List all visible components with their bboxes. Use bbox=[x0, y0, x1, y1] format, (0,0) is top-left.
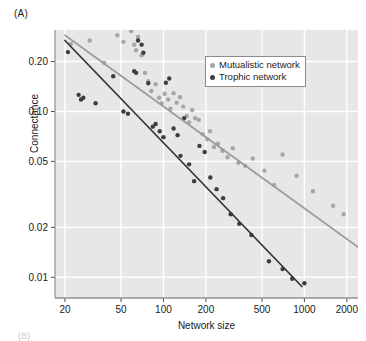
data-point bbox=[88, 38, 92, 42]
data-point bbox=[208, 175, 212, 179]
data-point bbox=[267, 259, 271, 263]
data-point bbox=[132, 42, 136, 46]
data-point bbox=[187, 162, 191, 166]
data-point bbox=[149, 89, 153, 93]
legend-marker-icon bbox=[210, 63, 215, 68]
data-point bbox=[197, 118, 201, 122]
data-point bbox=[121, 40, 125, 44]
figure-panel-a: (A) 2050100200500100020000.010.020.050.1… bbox=[0, 0, 366, 341]
data-point bbox=[146, 81, 150, 85]
data-point bbox=[126, 111, 130, 115]
data-point bbox=[171, 91, 175, 95]
data-point bbox=[136, 38, 140, 42]
legend-item-0: Mutualistic network bbox=[210, 59, 300, 71]
x-tick-label-2000: 2000 bbox=[336, 304, 359, 315]
data-point bbox=[178, 154, 182, 158]
data-point bbox=[141, 51, 145, 55]
legend-marker-icon bbox=[210, 75, 215, 80]
data-point bbox=[93, 101, 97, 105]
data-point bbox=[212, 145, 216, 149]
y-tick-label-0.01: 0.01 bbox=[29, 272, 49, 283]
data-point bbox=[143, 71, 147, 75]
next-panel-stub: (B) bbox=[18, 331, 30, 341]
data-point bbox=[231, 146, 235, 150]
data-point bbox=[121, 109, 125, 113]
data-point bbox=[171, 126, 175, 130]
data-point bbox=[174, 100, 178, 104]
data-point bbox=[208, 129, 212, 133]
data-point bbox=[341, 212, 345, 216]
legend: Mutualistic networkTrophic network bbox=[205, 56, 306, 87]
data-point bbox=[164, 81, 168, 85]
scatter-plot-svg: 2050100200500100020000.010.020.050.100.2… bbox=[0, 0, 366, 341]
legend-label: Trophic network bbox=[219, 71, 286, 83]
data-point bbox=[294, 173, 298, 177]
data-point bbox=[221, 196, 225, 200]
data-point bbox=[134, 48, 138, 52]
plot-area: 2050100200500100020000.010.020.050.100.2… bbox=[0, 0, 366, 341]
data-point bbox=[76, 93, 80, 97]
data-point bbox=[302, 281, 306, 285]
x-tick-label-200: 200 bbox=[198, 304, 215, 315]
y-axis-label: Connectance bbox=[29, 64, 40, 184]
data-point bbox=[214, 187, 218, 191]
data-point bbox=[251, 156, 255, 160]
data-point bbox=[129, 29, 133, 33]
y-tick-label-0.02: 0.02 bbox=[29, 222, 49, 233]
data-point bbox=[181, 104, 185, 108]
legend-item-1: Trophic network bbox=[210, 71, 300, 83]
data-point bbox=[202, 150, 206, 154]
data-point bbox=[190, 108, 194, 112]
data-point bbox=[81, 96, 85, 100]
data-point bbox=[153, 82, 157, 86]
data-point bbox=[139, 42, 143, 46]
data-point bbox=[225, 155, 229, 159]
data-point bbox=[197, 144, 201, 148]
x-tick-label-100: 100 bbox=[155, 304, 172, 315]
data-point bbox=[66, 50, 70, 54]
data-point bbox=[157, 96, 161, 100]
data-point bbox=[331, 204, 335, 208]
data-point bbox=[167, 76, 171, 80]
data-point bbox=[280, 152, 284, 156]
x-tick-label-1000: 1000 bbox=[293, 304, 316, 315]
data-point bbox=[161, 135, 165, 139]
data-point bbox=[134, 71, 138, 75]
x-tick-label-500: 500 bbox=[254, 304, 271, 315]
data-point bbox=[157, 129, 161, 133]
x-tick-label-50: 50 bbox=[115, 304, 127, 315]
data-point bbox=[111, 74, 115, 78]
data-point bbox=[311, 189, 315, 193]
x-axis-label: Network size bbox=[55, 320, 358, 331]
data-point bbox=[153, 122, 157, 126]
data-point bbox=[162, 91, 166, 95]
data-point bbox=[175, 133, 179, 137]
legend-label: Mutualistic network bbox=[219, 59, 300, 71]
data-point bbox=[166, 97, 170, 101]
data-point bbox=[115, 33, 119, 37]
data-point bbox=[262, 168, 266, 172]
data-point bbox=[192, 179, 196, 183]
data-point bbox=[178, 95, 182, 99]
x-tick-label-20: 20 bbox=[59, 304, 71, 315]
